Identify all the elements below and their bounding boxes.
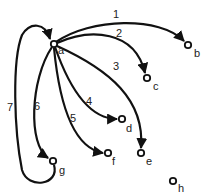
node-label: g <box>59 164 65 176</box>
node-label: e <box>146 155 152 167</box>
edge-label: 2 <box>116 27 122 39</box>
node-label: a <box>58 44 65 56</box>
node-c <box>144 75 150 81</box>
edge-label: 4 <box>86 95 92 107</box>
node-d <box>119 116 125 122</box>
node-g <box>50 158 56 164</box>
node-f <box>105 150 111 156</box>
directed-graph: 1234567 abcdefgh <box>0 0 206 196</box>
edge-label: 5 <box>70 112 76 124</box>
node-label: d <box>126 122 132 134</box>
edge-label: 1 <box>113 8 119 20</box>
node-label: b <box>194 47 200 59</box>
node-a <box>51 41 57 47</box>
node-label: f <box>112 155 116 167</box>
node-b <box>185 42 191 48</box>
edge-label: 3 <box>113 60 119 72</box>
edges-layer: 1234567 <box>7 8 184 183</box>
edge-label: 7 <box>7 101 13 113</box>
node-e <box>138 150 144 156</box>
node-label: c <box>153 80 159 92</box>
node-label: h <box>178 182 184 194</box>
edge-label: 6 <box>34 100 40 112</box>
node-h <box>170 178 176 184</box>
edge-a-c <box>57 35 145 73</box>
